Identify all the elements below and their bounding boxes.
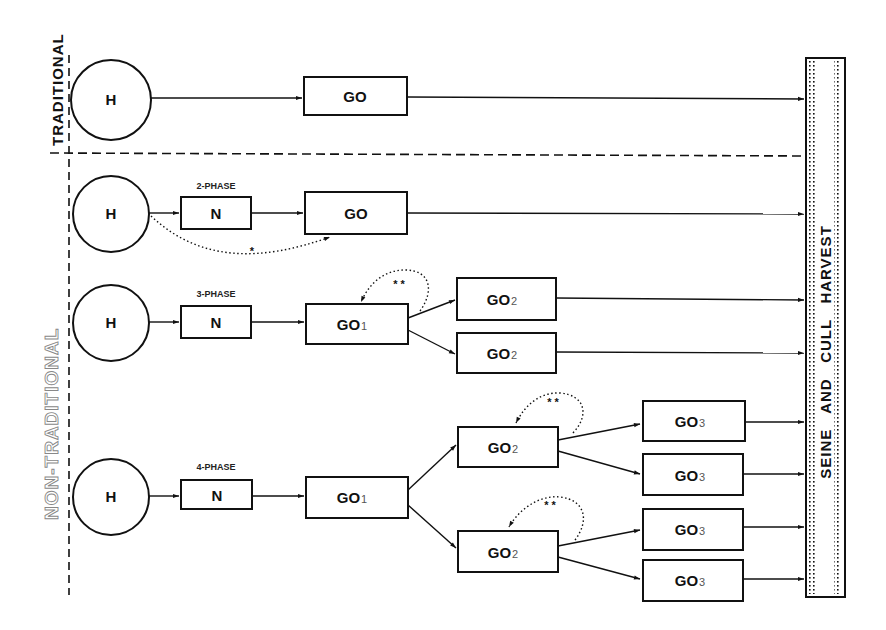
hatchery-label: H bbox=[106, 314, 117, 331]
loop-marker: * * bbox=[393, 278, 405, 290]
row-2-phase: H 2-PHASE N GO * bbox=[73, 176, 804, 257]
bypass-marker: * bbox=[250, 245, 255, 257]
phase-label: 2-PHASE bbox=[196, 181, 235, 191]
loop-marker: * * bbox=[547, 396, 559, 408]
seine-and-cull-harvest-bar: SEINE AND CULL HARVEST bbox=[806, 58, 845, 597]
hatchery-label: H bbox=[106, 488, 117, 505]
row-4-phase: H 4-PHASE N GO1 GO2 * * GO2 * * GO3 GO3 … bbox=[73, 393, 804, 601]
phase-label: 4-PHASE bbox=[196, 462, 235, 472]
row-traditional: H GO bbox=[71, 60, 804, 140]
nursery-label: N bbox=[211, 205, 222, 222]
hatchery-label: H bbox=[106, 91, 117, 108]
nursery-label: N bbox=[212, 487, 223, 504]
loop-marker: * * bbox=[544, 499, 556, 511]
traditional-label: TRADITIONAL bbox=[49, 33, 66, 146]
growout-label: GO bbox=[343, 88, 367, 105]
phase-label: 3-PHASE bbox=[196, 289, 235, 299]
hatchery-label: H bbox=[106, 205, 117, 222]
growout-label: GO bbox=[344, 205, 368, 222]
nursery-label: N bbox=[211, 314, 222, 331]
row-3-phase: H 3-PHASE N GO1 * * GO2 GO2 bbox=[73, 270, 804, 373]
pond-production-flow-diagram: TRADITIONAL NON-TRADITIONAL SEINE AND CU… bbox=[0, 0, 886, 630]
harvest-label: SEINE AND CULL HARVEST bbox=[817, 225, 834, 479]
non-traditional-label: NON-TRADITIONAL bbox=[41, 328, 62, 520]
